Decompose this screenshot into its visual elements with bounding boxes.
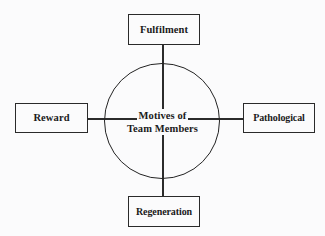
node-label-fulfilment: Fulfilment: [140, 24, 188, 36]
node-label-reward: Reward: [33, 112, 69, 124]
node-box-reward[interactable]: Reward: [15, 103, 88, 133]
node-label-regeneration: Regeneration: [136, 206, 192, 218]
node-box-fulfilment[interactable]: Fulfilment: [128, 14, 200, 45]
node-label-pathological: Pathological: [253, 112, 305, 124]
node-box-pathological[interactable]: Pathological: [243, 103, 315, 133]
node-box-regeneration[interactable]: Regeneration: [128, 196, 200, 227]
center-circle: [104, 63, 220, 179]
diagram-canvas: Motives of Team Members Fulfilment Patho…: [0, 0, 325, 236]
